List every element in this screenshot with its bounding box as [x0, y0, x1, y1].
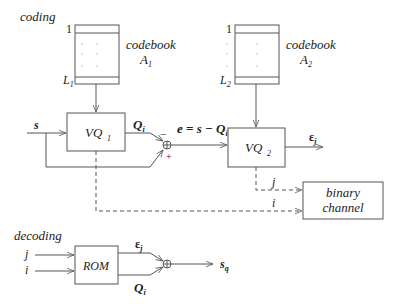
codebook-2-last-index: L2 — [219, 73, 231, 89]
plus-sign: + — [166, 151, 172, 162]
q1-output-path — [125, 133, 163, 141]
rom-label: ROM — [82, 259, 110, 273]
eps-output-label: εj — [309, 130, 317, 146]
vq1-block: VQ 1 — [67, 113, 125, 151]
error-signal-label: e = s − Qi — [177, 121, 229, 138]
vq2-block: VQ 2 — [228, 128, 285, 167]
decoder-i-label: i — [25, 263, 28, 277]
decoder-output-label: sq — [219, 257, 229, 273]
decoding-section-label: decoding — [14, 228, 62, 243]
summing-junction-icon — [163, 141, 171, 149]
channel-line2: channel — [322, 200, 364, 215]
codebook-1-name: A1 — [139, 52, 152, 69]
decoder-q-path — [118, 267, 163, 275]
codebook-2-name: A2 — [299, 52, 312, 69]
codebook-1-first-index: 1 — [66, 22, 72, 36]
input-signal-label: s — [33, 118, 39, 132]
rom-block: ROM — [75, 246, 118, 284]
vq2-sub: 2 — [267, 149, 271, 158]
codebook-2-first-index: 1 — [226, 22, 232, 36]
decoder-q-label: Qi — [134, 280, 146, 297]
decoder-eps-label: εj — [135, 237, 143, 253]
codebook-1-last-index: L1 — [62, 73, 74, 89]
index-j-label: j — [270, 175, 276, 189]
vq1-sub: 1 — [107, 134, 111, 143]
vq-coding-diagram: coding decoding 1 L1 codebook A1 1 L2 co… — [0, 0, 397, 306]
binary-channel-block: binary channel — [303, 182, 383, 219]
codebook-1-title: codebook — [126, 37, 176, 52]
index-i-label: i — [272, 196, 275, 210]
decoder-j-label: j — [23, 247, 29, 261]
codebook-1: 1 L1 codebook A1 — [62, 22, 176, 89]
codebook-2: 1 L2 codebook A2 — [219, 22, 336, 89]
coding-section-label: coding — [20, 9, 56, 24]
channel-line1: binary — [326, 185, 360, 200]
vq1-label: VQ — [85, 125, 103, 140]
vq2-label: VQ — [245, 140, 263, 155]
minus-sign: − — [160, 128, 166, 140]
codebook-2-title: codebook — [286, 37, 336, 52]
q1-output-label: Qi — [133, 117, 145, 134]
decoder-eps-path — [118, 253, 163, 261]
index-j-path — [256, 167, 302, 190]
decoder-summing-junction-icon — [163, 260, 171, 268]
